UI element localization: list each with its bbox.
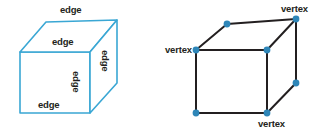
right-cube-vertices bbox=[196, 19, 296, 113]
vertex-dot bbox=[264, 47, 271, 54]
cube-diagram-svg bbox=[0, 0, 330, 132]
edge-label-right-side: edge bbox=[101, 50, 111, 71]
figure-root: edge edge edge edge edge vertex vertex v… bbox=[0, 0, 330, 132]
vertex-dot bbox=[193, 110, 200, 117]
vertex-dot bbox=[293, 80, 300, 87]
edge-label-top-back: edge bbox=[60, 5, 81, 15]
right-cube-back-top-edge bbox=[227, 19, 296, 24]
edge-label-front-vertical: edge bbox=[72, 71, 82, 92]
vertex-dot bbox=[264, 110, 271, 117]
right-cube-diagonal-bottom-right bbox=[267, 83, 296, 113]
edge-label-bottom-front: edge bbox=[38, 100, 59, 110]
edge-label-top-front: edge bbox=[52, 37, 73, 47]
right-cube-vertex-dots bbox=[193, 16, 300, 117]
right-cube-front-face bbox=[196, 50, 267, 113]
vertex-label-top-right: vertex bbox=[281, 4, 308, 14]
vertex-dot bbox=[293, 16, 300, 23]
vertex-label-front-top-left: vertex bbox=[165, 45, 192, 55]
vertex-dot bbox=[193, 47, 200, 54]
right-cube-diagonal-top-left bbox=[196, 24, 227, 50]
vertex-dot bbox=[224, 21, 231, 28]
right-cube-diagonal-top-right bbox=[267, 19, 296, 50]
vertex-label-bottom-front-right: vertex bbox=[258, 119, 285, 129]
